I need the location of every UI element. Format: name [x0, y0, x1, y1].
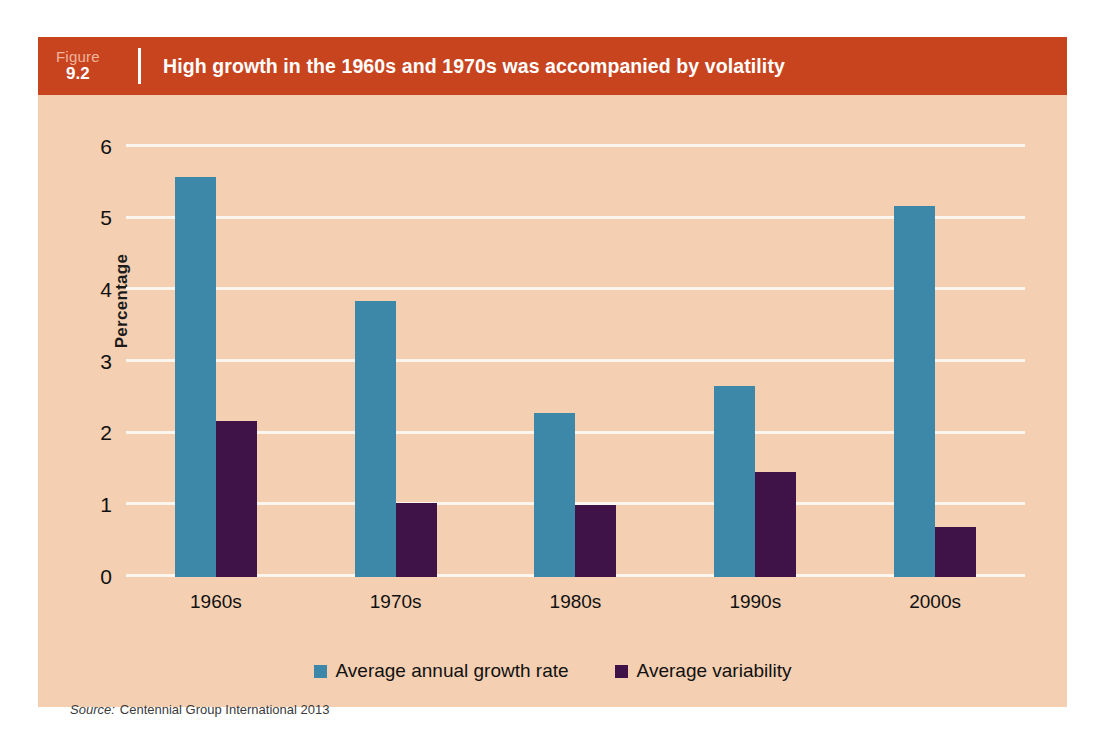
legend-item[interactable]: Average annual growth rate: [314, 660, 569, 682]
legend-swatch-icon: [615, 665, 628, 678]
chart-area: Percentage 0123456 1960s1970s1980s1990s2…: [38, 95, 1067, 707]
bar-group: 1980s: [486, 147, 666, 577]
figure-panel: Figure 9.2 High growth in the 1960s and …: [38, 37, 1067, 707]
source-word: Source:: [70, 702, 115, 717]
y-axis-tick-label: 2: [100, 422, 112, 443]
source-text: Centennial Group International 2013: [120, 702, 330, 717]
figure-number-block: Figure 9.2: [38, 49, 138, 83]
x-axis-tick-label: 1980s: [486, 591, 666, 613]
x-axis-tick-label: 1970s: [306, 591, 486, 613]
bar-group: 1960s: [126, 147, 306, 577]
y-axis-tick-label: 0: [100, 565, 112, 586]
bar[interactable]: [175, 177, 216, 577]
bar[interactable]: [534, 413, 575, 577]
bar[interactable]: [755, 472, 796, 577]
y-axis-tick-label: 3: [100, 350, 112, 371]
bar-group: 2000s: [845, 147, 1025, 577]
source-note: Source:Centennial Group International 20…: [70, 702, 329, 717]
chart-legend: Average annual growth rateAverage variab…: [38, 660, 1067, 682]
figure-title: High growth in the 1960s and 1970s was a…: [163, 55, 785, 78]
x-axis-tick-label: 1960s: [126, 591, 306, 613]
figure-label-word: Figure: [56, 49, 138, 65]
legend-swatch-icon: [314, 665, 327, 678]
legend-label: Average variability: [637, 660, 792, 682]
bar-group: 1990s: [665, 147, 845, 577]
x-axis-tick-label: 2000s: [845, 591, 1025, 613]
bar[interactable]: [935, 527, 976, 577]
y-axis-tick-label: 5: [100, 207, 112, 228]
figure-number: 9.2: [56, 65, 138, 83]
bar[interactable]: [575, 505, 616, 577]
y-axis-tick-label: 1: [100, 493, 112, 514]
y-axis-tick-label: 6: [100, 135, 112, 156]
bar[interactable]: [216, 421, 257, 577]
header-divider: [138, 48, 141, 84]
bar[interactable]: [396, 503, 437, 577]
bar[interactable]: [714, 386, 755, 577]
figure-header-bar: Figure 9.2 High growth in the 1960s and …: [38, 37, 1067, 95]
bar[interactable]: [355, 301, 396, 577]
x-axis-tick-label: 1990s: [665, 591, 845, 613]
legend-label: Average annual growth rate: [336, 660, 569, 682]
legend-item[interactable]: Average variability: [615, 660, 792, 682]
bars-layer: 1960s1970s1980s1990s2000s: [126, 147, 1025, 577]
bar[interactable]: [894, 206, 935, 577]
bar-group: 1970s: [306, 147, 486, 577]
y-axis-tick-label: 4: [100, 278, 112, 299]
plot-area: 0123456 1960s1970s1980s1990s2000s: [126, 147, 1025, 577]
